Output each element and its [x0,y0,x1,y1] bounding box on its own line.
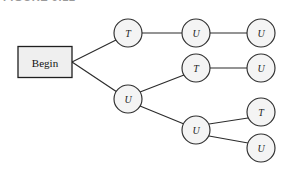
edge-u1-to-u5 [140,106,184,124]
tree-diagram: Begin T U U U T U U [0,0,288,169]
node-u5[interactable]: U [182,116,210,144]
node-u5-label: U [192,125,200,136]
start-node-label: Begin [32,57,59,69]
node-t1[interactable]: T [114,19,142,47]
node-u4[interactable]: U [247,54,275,82]
node-u1-label: U [124,94,132,105]
edge-begin-to-u1 [72,62,117,92]
node-u3[interactable]: U [247,19,275,47]
node-u4-label: U [257,63,265,74]
node-u6-label: U [257,143,265,154]
node-u3-label: U [257,28,265,39]
node-u2-label: U [192,28,200,39]
edge-u1-to-t2 [140,75,184,92]
edge-u5-to-u6 [209,136,248,143]
figure-container: FIGURE 9.12 Begin T U U [0,0,288,169]
node-t2[interactable]: T [182,54,210,82]
node-u6[interactable]: U [247,134,275,162]
start-node[interactable]: Begin [18,47,72,78]
node-u1[interactable]: U [114,85,142,113]
edge-group [72,33,248,143]
node-u2[interactable]: U [182,19,210,47]
edge-u5-to-t3 [209,118,248,124]
node-t3[interactable]: T [247,98,275,126]
edge-begin-to-t1 [72,40,116,62]
